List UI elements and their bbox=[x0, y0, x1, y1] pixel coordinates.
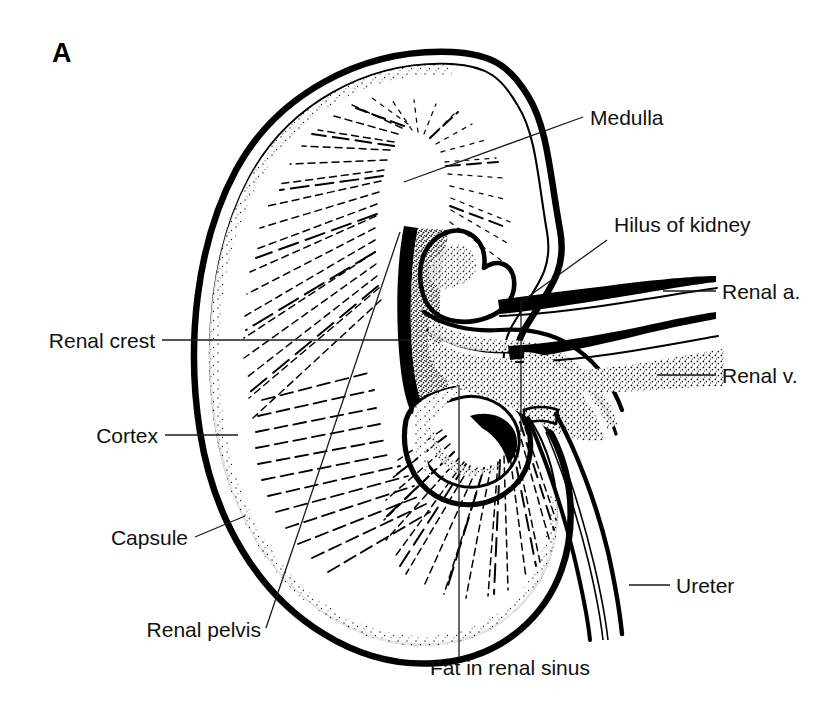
ureter-proximal-fat bbox=[524, 352, 558, 406]
label-renal-crest: Renal crest bbox=[49, 329, 155, 352]
panel-letter: A bbox=[52, 38, 72, 68]
leader-capsule bbox=[195, 516, 245, 537]
label-cortex: Cortex bbox=[96, 424, 158, 447]
label-medulla: Medulla bbox=[590, 106, 664, 129]
subcapsular-stipple bbox=[214, 70, 553, 641]
label-ureter: Ureter bbox=[676, 574, 734, 597]
leader-medulla bbox=[404, 117, 583, 182]
label-renal-a: Renal a. bbox=[722, 280, 800, 303]
capsule-inner-contour bbox=[210, 64, 557, 645]
kidney-diagram: A Medulla Hilus of kidney Renal a. Renal… bbox=[0, 0, 835, 709]
renal-artery bbox=[498, 276, 717, 316]
figure-container: A Medulla Hilus of kidney Renal a. Renal… bbox=[0, 0, 835, 709]
label-renal-pelvis: Renal pelvis bbox=[147, 618, 261, 641]
lower-calyx-solid-lip bbox=[470, 414, 517, 464]
label-capsule: Capsule bbox=[111, 526, 188, 549]
label-hilus-of-kidney: Hilus of kidney bbox=[614, 213, 751, 236]
label-renal-v: Renal v. bbox=[722, 364, 797, 387]
renal-vein-body bbox=[508, 312, 716, 360]
lower-calyx-shading bbox=[430, 430, 502, 476]
label-fat-in-renal-sinus: Fat in renal sinus bbox=[430, 656, 590, 679]
